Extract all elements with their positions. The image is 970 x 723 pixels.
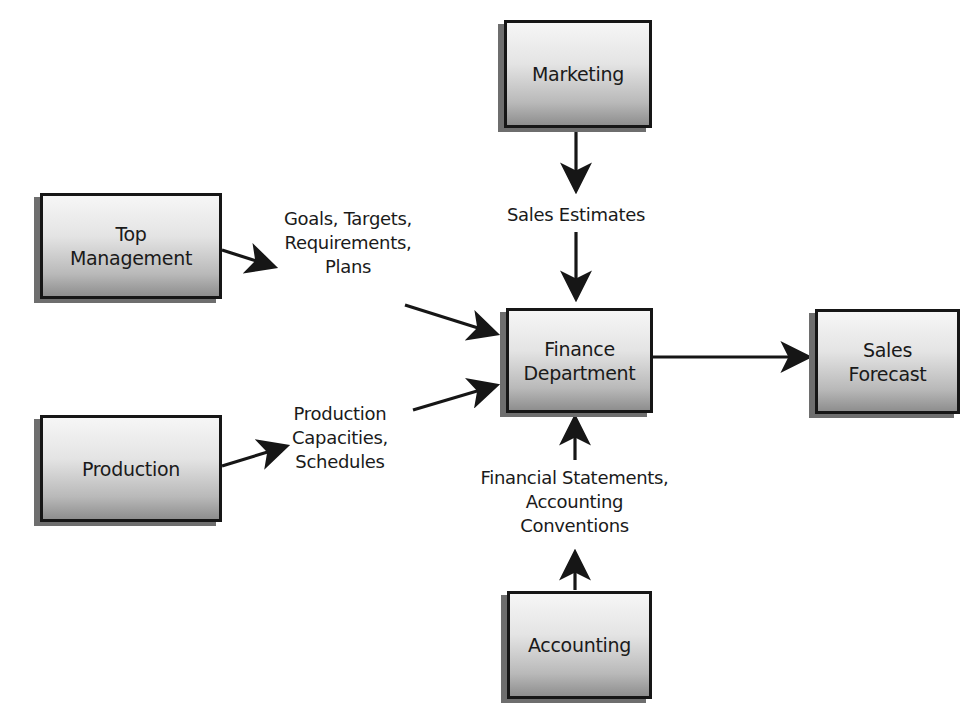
- label-line: Accounting: [526, 491, 624, 512]
- label-line: Forecast: [849, 363, 927, 385]
- label-line: Plans: [325, 256, 371, 277]
- node-sales-forecast: Sales Forecast: [815, 309, 960, 414]
- edge-label-goals-targets: Goals, Targets, Requirements, Plans: [268, 207, 428, 279]
- edge-label-production-capacities: Production Capacities, Schedules: [285, 402, 395, 474]
- node-production-label: Production: [82, 457, 180, 481]
- arrow-capacities-to-finance: [413, 386, 494, 410]
- label-line: Schedules: [295, 451, 384, 472]
- node-finance-label: Finance Department: [524, 337, 636, 385]
- label-text: Sales Estimates: [507, 204, 645, 225]
- label-line: Production: [294, 403, 387, 424]
- label-line: Top: [115, 223, 146, 245]
- label-line: Management: [70, 247, 192, 269]
- node-sales-forecast-label: Sales Forecast: [849, 338, 927, 386]
- node-top-management: Top Management: [40, 193, 222, 299]
- label-line: Financial Statements,: [480, 467, 668, 488]
- label-line: Goals, Targets,: [284, 208, 412, 229]
- label-line: Capacities,: [292, 427, 388, 448]
- label-line: Finance: [544, 338, 615, 360]
- node-production: Production: [40, 415, 222, 522]
- arrow-goals-to-finance: [405, 305, 494, 333]
- node-marketing-label: Marketing: [532, 62, 624, 86]
- label-line: Requirements,: [285, 232, 412, 253]
- arrow-top-management-to-goals: [222, 250, 272, 266]
- node-accounting-label: Accounting: [528, 633, 631, 657]
- edge-label-financial-statements: Financial Statements, Accounting Convent…: [462, 466, 687, 538]
- arrow-production-to-capacities: [222, 447, 284, 466]
- label-line: Sales: [863, 339, 912, 361]
- node-marketing: Marketing: [504, 20, 652, 128]
- edge-label-sales-estimates: Sales Estimates: [496, 203, 656, 227]
- node-accounting: Accounting: [507, 591, 652, 699]
- node-top-management-label: Top Management: [70, 222, 192, 270]
- label-line: Conventions: [520, 515, 629, 536]
- label-line: Department: [524, 362, 636, 384]
- node-finance-department: Finance Department: [506, 308, 653, 413]
